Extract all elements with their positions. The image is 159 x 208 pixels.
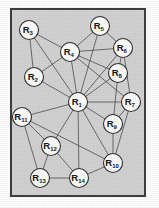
node-r14[interactable]: R14	[70, 169, 89, 188]
node-r8[interactable]: R8	[109, 64, 128, 83]
node-subscript-r14: 14	[78, 178, 85, 184]
network-graph-figure: R1R2R3R4R5R6R7R8R9R10R11R12R13R14	[0, 0, 159, 208]
node-r1[interactable]: R1	[69, 93, 88, 112]
node-r4[interactable]: R4	[61, 43, 80, 62]
node-r11[interactable]: R11	[13, 108, 32, 127]
node-r13[interactable]: R13	[31, 169, 50, 188]
node-r3[interactable]: R3	[20, 21, 39, 40]
node-r7[interactable]: R7	[122, 93, 141, 112]
node-subscript-r12: 12	[50, 146, 57, 152]
node-r10[interactable]: R10	[104, 154, 123, 173]
node-subscript-r13: 13	[39, 178, 46, 184]
node-subscript-r10: 10	[112, 163, 119, 169]
node-r5[interactable]: R5	[91, 17, 110, 36]
node-r6[interactable]: R6	[114, 39, 133, 58]
node-r12[interactable]: R12	[42, 137, 61, 156]
graph-canvas: R1R2R3R4R5R6R7R8R9R10R11R12R13R14	[0, 0, 159, 208]
node-r9[interactable]: R9	[104, 115, 123, 134]
node-subscript-r11: 11	[21, 117, 28, 123]
node-r2[interactable]: R2	[25, 68, 44, 87]
